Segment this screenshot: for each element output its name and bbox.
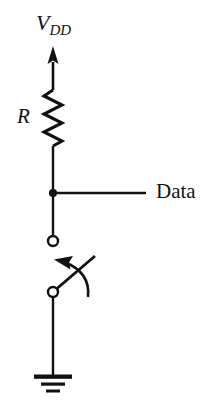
figure-background [0, 0, 211, 418]
supply-label: VDD [36, 12, 71, 34]
data-output-label: Data [156, 181, 196, 202]
ground-bar-1 [34, 375, 72, 379]
supply-label-base: V [36, 10, 49, 35]
upper-terminal-circle-icon [48, 236, 58, 246]
supply-label-subscript: DD [49, 22, 71, 38]
ground-bar-3 [46, 390, 60, 393]
lower-terminal-circle-icon [48, 287, 58, 297]
resistor-label: R [17, 106, 30, 127]
ground-bar-2 [41, 383, 65, 386]
circuit-diagram [0, 0, 211, 418]
